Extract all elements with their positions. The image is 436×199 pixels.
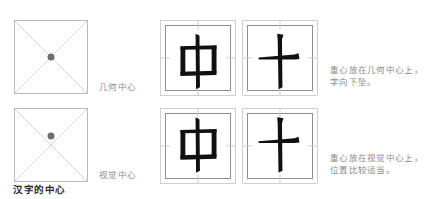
character-zhong-glyph (161, 21, 235, 95)
glyph-box-zhong-visual (160, 108, 236, 184)
geometric-center-label: 几何中心 (99, 80, 137, 92)
geometric-center-square (14, 20, 88, 94)
glyph-box-shi-visual (242, 108, 318, 184)
character-shi-glyph (243, 109, 317, 183)
note-geometric-center: 重心放在几何中心上，字向下坠。 (330, 64, 430, 89)
visual-center-square (14, 108, 88, 182)
visual-center-dot (48, 133, 55, 140)
character-shi-glyph (243, 21, 317, 95)
glyph-box-shi-geometric (242, 20, 318, 96)
diagonal-cross-icon (15, 109, 87, 181)
glyph-box-zhong-geometric (160, 20, 236, 96)
diagram-stage: 几何中心 视觉中心 (0, 0, 436, 199)
visual-center-label: 视觉中心 (99, 168, 137, 180)
character-zhong-glyph (161, 109, 235, 183)
note-visual-center: 重心放在视觉中心上，位置比较适当。 (330, 152, 430, 177)
geometric-center-dot (48, 54, 55, 61)
page-title: 汉字的中心 (13, 182, 66, 196)
